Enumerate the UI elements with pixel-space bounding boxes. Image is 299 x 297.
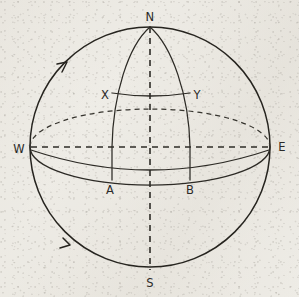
spherical-lune-figure: N S W E X Y A B: [0, 0, 299, 297]
upper-right-vertex-label: Y: [192, 88, 201, 102]
upper-left-vertex-label: X: [101, 88, 109, 102]
lune-right-meridian: [150, 27, 190, 180]
lower-right-vertex-label: B: [186, 183, 194, 197]
south-pole-label: S: [146, 276, 154, 290]
xy-arc: [112, 93, 190, 96]
north-pole-label: N: [146, 10, 155, 24]
rotation-tick-lower-left-icon: [60, 238, 70, 248]
sphere-diagram: N S W E X Y A B: [0, 0, 299, 297]
lune-left-meridian: [112, 27, 150, 180]
west-label: W: [13, 142, 25, 156]
east-label: E: [278, 140, 285, 154]
lower-left-vertex-label: A: [106, 183, 114, 197]
